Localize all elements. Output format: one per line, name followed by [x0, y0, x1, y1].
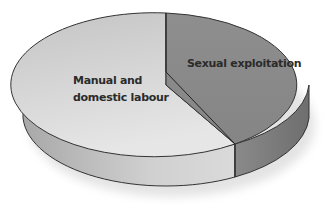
- slice-label-sexual-exploitation: Sexual exploitation: [187, 55, 301, 72]
- slice-label-manual-domestic-labour: Manual and domestic labour: [73, 72, 169, 106]
- slice-label-manual-line1: Manual and: [73, 72, 169, 89]
- slice-label-manual-line2: domestic labour: [73, 89, 169, 106]
